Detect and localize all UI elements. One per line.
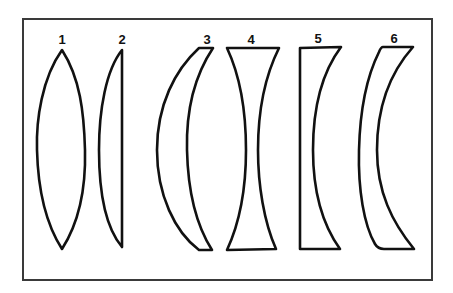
lens-6-label: 6 (390, 31, 397, 46)
lens-2-shape-plano-convex (99, 50, 122, 247)
lens-1: 1 (37, 32, 85, 249)
lens-3-shape-positive-meniscus (157, 48, 213, 250)
lens-3-label: 3 (203, 32, 210, 47)
lens-1-label: 1 (58, 32, 65, 47)
lens-6-shape-negative-meniscus (359, 47, 414, 249)
lens-5-shape-plano-concave (300, 47, 341, 249)
lens-6: 6 (359, 31, 414, 249)
lens-4-shape-biconcave (227, 48, 279, 250)
lens-5: 5 (300, 31, 341, 249)
lens-4-label: 4 (247, 32, 255, 47)
lens-2-label: 2 (118, 32, 125, 47)
lens-4: 4 (227, 32, 279, 250)
lens-2: 2 (99, 32, 126, 247)
lens-5-label: 5 (314, 31, 321, 46)
lens-1-shape-biconvex (37, 50, 85, 249)
lens-diagram: 1 2 3 4 5 6 (0, 0, 453, 293)
lens-3: 3 (157, 32, 213, 250)
